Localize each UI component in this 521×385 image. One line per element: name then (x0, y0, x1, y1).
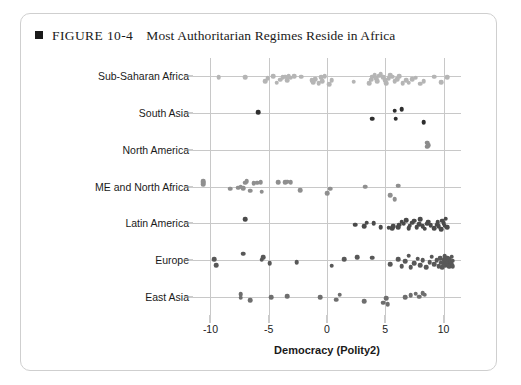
scatter-point (318, 295, 323, 300)
y-axis-tick-label: East Asia (145, 291, 189, 303)
y-axis-tick-mark (184, 259, 193, 260)
y-axis-tick-label: North America (122, 144, 189, 156)
scatter-point (418, 217, 423, 222)
scatter-point (420, 258, 425, 263)
scatter-point (396, 184, 401, 189)
scatter-point (423, 226, 428, 231)
scatter-point (355, 255, 360, 260)
scatter-point (397, 74, 402, 79)
y-axis-ticks (184, 58, 193, 315)
y-axis-tick-mark (184, 113, 193, 114)
scatter-point (392, 109, 397, 114)
scatter-point (201, 179, 206, 184)
scatter-point (418, 263, 423, 268)
y-axis-tick-label: South Asia (139, 107, 189, 119)
scatter-point (424, 265, 429, 270)
plot-area (193, 58, 461, 315)
scatter-point (241, 186, 246, 191)
scatter-point (285, 294, 290, 299)
scatter-point (289, 180, 294, 185)
scatter-point (421, 79, 426, 84)
scatter-point (364, 220, 369, 225)
chart-plot: Sub-Saharan AfricaSouth AsiaNorth Americ… (21, 14, 498, 372)
figure-card: FIGURE 10-4 Most Authoritarian Regimes R… (20, 13, 497, 371)
y-axis-tick-mark (184, 296, 193, 297)
scatter-point (334, 297, 339, 302)
y-axis-tick-mark (184, 186, 193, 187)
y-axis-tick-label: ME and North Africa (95, 181, 189, 193)
scatter-point (268, 261, 273, 266)
scatter-point (238, 292, 243, 297)
scatter-point (212, 257, 217, 262)
scatter-point (298, 188, 303, 193)
scatter-point (328, 187, 333, 192)
y-axis-tick-mark (184, 149, 193, 150)
scatter-point (269, 295, 274, 300)
y-axis-tick-mark (184, 76, 193, 77)
x-axis-tick-label: -10 (203, 323, 218, 335)
scatter-point (385, 302, 390, 307)
scatter-point (342, 257, 347, 262)
scatter-point (393, 116, 398, 121)
scatter-point (299, 74, 304, 79)
gridline-horizontal (193, 187, 461, 188)
scatter-point (329, 263, 334, 268)
scatter-point (384, 296, 389, 301)
scatter-point (451, 258, 456, 263)
gridline-horizontal (193, 150, 461, 151)
scatter-point (261, 255, 266, 260)
scatter-point (388, 262, 393, 267)
scatter-point (378, 225, 383, 230)
scatter-point (444, 217, 449, 222)
scatter-point (352, 79, 357, 84)
x-axis-labels: -10-50510 (193, 315, 461, 335)
scatter-point (243, 75, 248, 80)
scatter-point (396, 257, 401, 262)
scatter-point (327, 82, 332, 87)
y-axis-tick-mark (184, 223, 193, 224)
x-axis-tick-label: 0 (324, 323, 330, 335)
scatter-point (404, 218, 409, 223)
scatter-point (432, 74, 437, 79)
y-axis-tick-label: Sub-Saharan Africa (98, 70, 189, 82)
y-axis-labels: Sub-Saharan AfricaSouth AsiaNorth Americ… (21, 58, 189, 315)
scatter-point (265, 76, 270, 81)
scatter-point (363, 185, 368, 190)
scatter-point (388, 193, 393, 198)
gridline-horizontal (193, 76, 461, 77)
scatter-point (384, 81, 389, 86)
scatter-point (325, 191, 330, 196)
scatter-point (371, 221, 376, 226)
scatter-point (259, 189, 264, 194)
scatter-point (445, 225, 450, 230)
scatter-point (409, 265, 414, 270)
scatter-point (322, 74, 327, 79)
scatter-point (256, 110, 261, 115)
scatter-point (445, 75, 450, 80)
scatter-point (423, 292, 428, 297)
scatter-point (403, 295, 408, 300)
x-axis-tick-label: 5 (382, 323, 388, 335)
scatter-point (292, 74, 297, 79)
scatter-point (413, 75, 418, 80)
scatter-point (425, 140, 430, 145)
x-axis-title: Democracy (Polity2) (193, 344, 461, 356)
scatter-point (248, 189, 253, 194)
scatter-point (320, 79, 325, 84)
scatter-point (399, 264, 404, 269)
scatter-point (439, 80, 444, 85)
scatter-point (248, 298, 253, 303)
scatter-point (451, 264, 456, 269)
scatter-point (370, 256, 375, 261)
scatter-point (353, 223, 358, 228)
y-axis-tick-label: Latin America (125, 217, 189, 229)
scatter-point (216, 75, 221, 80)
scatter-point (271, 74, 276, 79)
scatter-point (244, 179, 249, 184)
scatter-point (243, 217, 248, 222)
scatter-point (241, 252, 246, 257)
scatter-point (399, 107, 404, 112)
scatter-point (258, 180, 263, 185)
x-axis-tick-label: -5 (264, 323, 273, 335)
scatter-point (362, 299, 367, 304)
